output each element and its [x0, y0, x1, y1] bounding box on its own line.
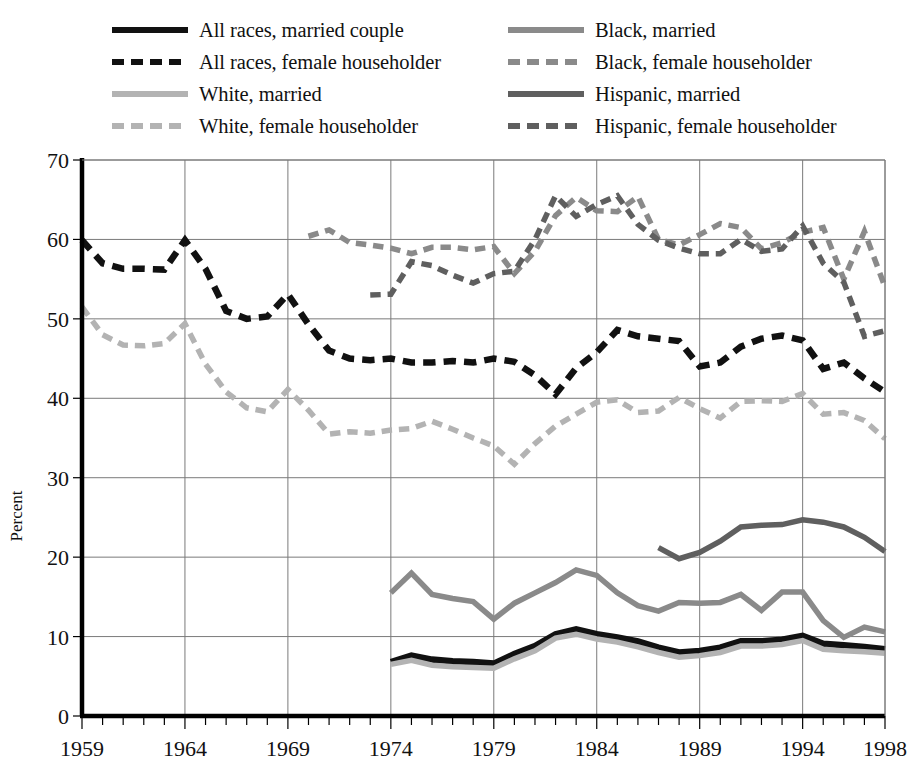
- series-lines: [82, 196, 885, 669]
- y-tick-label-40: 40: [47, 386, 69, 411]
- legend-column-right: Black, marriedBlack, female householderH…: [508, 14, 836, 142]
- axis-lines: [80, 158, 885, 716]
- legend-label-all_married: All races, married couple: [199, 20, 404, 40]
- legend-label-black_married: Black, married: [595, 20, 715, 40]
- x-tick-label-1964: 1964: [163, 736, 207, 761]
- y-axis-title: Percent: [7, 490, 26, 541]
- series-line-black_married[interactable]: [391, 570, 885, 638]
- y-tick-label-0: 0: [58, 704, 69, 729]
- chart-legend: All races, married coupleAll races, fema…: [0, 0, 921, 150]
- y-tick-label-10: 10: [47, 625, 69, 650]
- legend-item-all_female[interactable]: All races, female householder: [112, 46, 441, 78]
- y-tick-label-50: 50: [47, 307, 69, 332]
- series-line-all_female[interactable]: [82, 240, 885, 394]
- legend-item-black_female[interactable]: Black, female householder: [508, 46, 836, 78]
- legend-column-left: All races, married coupleAll races, fema…: [112, 14, 441, 142]
- legend-label-hispanic_female: Hispanic, female householder: [595, 116, 836, 136]
- x-tick-label-1979: 1979: [472, 736, 516, 761]
- chart-plot-area: 0102030405060701959196419691974197919841…: [0, 146, 921, 774]
- y-tick-label-70: 70: [47, 148, 69, 173]
- grid-lines: [82, 160, 885, 716]
- y-tick-label-30: 30: [47, 466, 69, 491]
- series-line-white_female[interactable]: [82, 307, 885, 464]
- x-tick-label-1974: 1974: [369, 736, 413, 761]
- x-tick-label-1969: 1969: [266, 736, 310, 761]
- x-tick-label-1984: 1984: [575, 736, 619, 761]
- line-chart-svg: 0102030405060701959196419691974197919841…: [0, 146, 921, 774]
- x-tick-label-1959: 1959: [60, 736, 104, 761]
- legend-item-white_female[interactable]: White, female householder: [112, 110, 441, 142]
- legend-item-all_married[interactable]: All races, married couple: [112, 14, 441, 46]
- x-tick-label-1994: 1994: [781, 736, 825, 761]
- legend-item-hispanic_female[interactable]: Hispanic, female householder: [508, 110, 836, 142]
- series-line-hispanic_female[interactable]: [370, 196, 885, 337]
- x-tick-label-1998: 1998: [863, 736, 907, 761]
- legend-item-white_married[interactable]: White, married: [112, 78, 441, 110]
- figure-root: All races, married coupleAll races, fema…: [0, 0, 921, 774]
- legend-item-hispanic_married[interactable]: Hispanic, married: [508, 78, 836, 110]
- x-tick-label-1989: 1989: [678, 736, 722, 761]
- legend-item-black_married[interactable]: Black, married: [508, 14, 836, 46]
- legend-label-white_married: White, married: [199, 84, 322, 104]
- legend-label-hispanic_married: Hispanic, married: [595, 84, 740, 104]
- legend-label-black_female: Black, female householder: [595, 52, 812, 72]
- y-tick-label-60: 60: [47, 227, 69, 252]
- series-line-hispanic_married[interactable]: [659, 520, 885, 559]
- legend-label-white_female: White, female householder: [199, 116, 418, 136]
- legend-label-all_female: All races, female householder: [199, 52, 441, 72]
- y-tick-label-20: 20: [47, 545, 69, 570]
